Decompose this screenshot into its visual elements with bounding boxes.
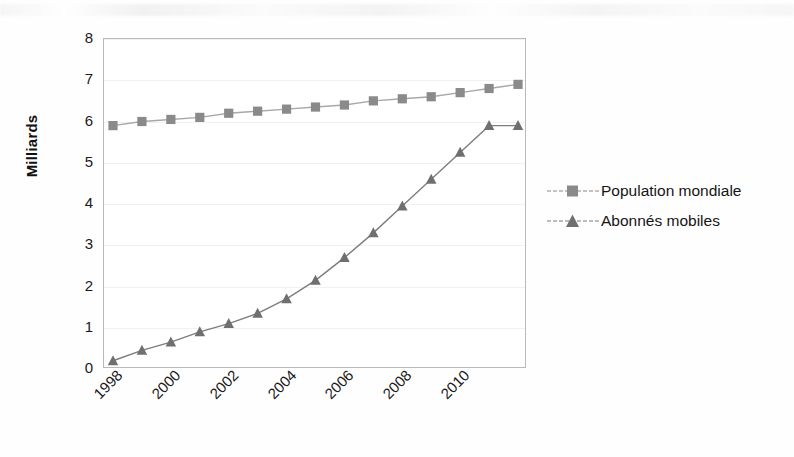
y-axis-title: Milliards <box>23 81 43 211</box>
y-tick-label: 6 <box>67 113 93 129</box>
square-marker-icon <box>545 181 601 201</box>
series-population-mondiale <box>108 80 522 130</box>
y-tick-label: 8 <box>67 30 93 46</box>
data-point-triangle <box>339 252 350 262</box>
x-tick-label: 2008 <box>379 366 415 402</box>
x-tick-label: 2000 <box>148 366 184 402</box>
data-point-square <box>513 80 522 89</box>
data-point-square <box>427 92 436 101</box>
data-point-square <box>398 94 407 103</box>
y-tick-label: 0 <box>67 360 93 376</box>
plot-area <box>103 38 526 368</box>
x-tick-label: 1998 <box>90 366 126 402</box>
data-point-triangle <box>310 275 321 285</box>
data-point-square <box>224 109 233 118</box>
x-tick-label: 2006 <box>321 366 357 402</box>
data-point-square <box>166 115 175 124</box>
data-point-square <box>282 105 291 114</box>
x-tick-label: 2004 <box>264 366 300 402</box>
scan-noise-artifact <box>0 4 794 16</box>
data-point-square <box>369 96 378 105</box>
line-chart-figure: Milliards 012345678 19982000200220042006… <box>0 0 794 457</box>
data-point-triangle <box>281 293 292 303</box>
x-tick-label: 2010 <box>437 366 473 402</box>
y-tick-label: 3 <box>67 236 93 252</box>
series-abonnes-mobiles <box>108 120 524 365</box>
data-point-square <box>456 88 465 97</box>
legend-item-population-mondiale: Population mondiale <box>545 176 780 206</box>
data-point-square <box>340 100 349 109</box>
data-point-square <box>311 102 320 111</box>
legend-label-population-mondiale: Population mondiale <box>601 182 741 200</box>
y-tick-label: 5 <box>67 154 93 170</box>
data-point-square <box>195 113 204 122</box>
data-point-square <box>137 117 146 126</box>
x-tick-label: 2002 <box>206 366 242 402</box>
y-tick-label: 1 <box>67 319 93 335</box>
triangle-marker-icon <box>545 211 601 231</box>
data-point-square <box>108 121 117 130</box>
y-tick-label: 2 <box>67 278 93 294</box>
legend-label-abonnes-mobiles: Abonnés mobiles <box>601 212 720 230</box>
series-canvas <box>104 39 527 369</box>
data-point-square <box>484 84 493 93</box>
data-point-triangle <box>252 308 263 318</box>
series-line <box>113 126 518 361</box>
y-tick-label: 7 <box>67 71 93 87</box>
legend-item-abonnes-mobiles: Abonnés mobiles <box>545 206 780 236</box>
chart-legend: Population mondiale Abonnés mobiles <box>545 176 780 236</box>
y-tick-label: 4 <box>67 195 93 211</box>
data-point-square <box>253 107 262 116</box>
